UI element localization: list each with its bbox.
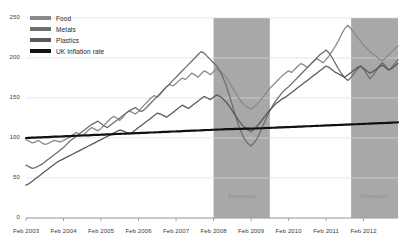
legend-label-plastics: Plastics: [56, 37, 79, 44]
y-axis-tick-label: 100: [0, 134, 20, 140]
y-axis-tick-label: 0: [0, 214, 20, 220]
recession-band-label: Recession: [361, 193, 388, 199]
legend-item-uk-inflation-rate: UK Inflation rate: [30, 46, 104, 56]
recession-band-label: Recession: [228, 193, 255, 199]
legend-swatch-food: [30, 16, 51, 20]
y-axis-tick-label: 250: [0, 14, 20, 20]
legend-label-food: Food: [56, 15, 71, 22]
x-axis-tick-label: Feb 2012: [341, 228, 387, 234]
legend-label-metals: Metals: [56, 26, 76, 33]
legend-item-plastics: Plastics: [30, 35, 104, 45]
chart-legend: Food Metals Plastics UK Inflation rate: [30, 13, 104, 57]
y-axis-tick-label: 200: [0, 54, 20, 60]
legend-swatch-plastics: [30, 38, 51, 42]
legend-label-uk-inflation-rate: UK Inflation rate: [56, 48, 104, 55]
legend-swatch-metals: [30, 27, 51, 31]
y-axis-tick-label: 50: [0, 174, 20, 180]
y-axis-tick-label: 150: [0, 94, 20, 100]
chart-container: Food Metals Plastics UK Inflation rate 2…: [0, 0, 402, 252]
legend-swatch-uk-inflation-rate: [30, 49, 51, 53]
legend-item-food: Food: [30, 13, 104, 23]
legend-item-metals: Metals: [30, 24, 104, 34]
